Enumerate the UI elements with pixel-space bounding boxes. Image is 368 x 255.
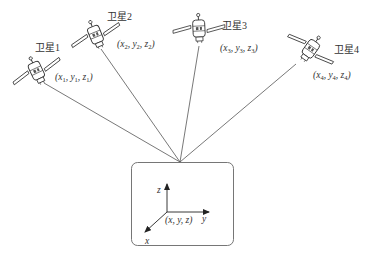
y-axis-label: y (201, 214, 207, 224)
x-axis-label: x (144, 236, 150, 246)
satellite-3-icon (172, 12, 225, 44)
satellite-4-icon (281, 21, 341, 75)
satellite-2-label: 卫星2 (107, 11, 132, 22)
satellite-1-icon (6, 46, 66, 95)
receiver-box (132, 163, 234, 246)
gps-diagram: 卫星1 卫星2 卫星3 卫星4 (x1, y1, z1) (x2, y2, z2… (0, 0, 368, 255)
satellite-4-label: 卫星4 (334, 44, 359, 55)
satellite-3-label: 卫星3 (222, 20, 247, 31)
satellite-1-coord: (x1, y1, z1) (55, 72, 93, 83)
x-axis (145, 212, 167, 232)
receiver-coord: (x, y, z) (165, 215, 192, 226)
signal-line-2 (101, 49, 180, 162)
signal-line-1 (44, 83, 180, 162)
satellite-2-coord: (x2, y2, z2) (117, 39, 155, 50)
signal-line-3 (180, 46, 199, 162)
satellite-3-coord: (x3, y3, z3) (220, 43, 258, 54)
z-axis-label: z (156, 185, 161, 195)
signal-line-4 (180, 64, 296, 162)
satellite-1-label: 卫星1 (35, 42, 60, 53)
signal-lines (44, 46, 296, 162)
satellite-4-coord: (x4, y4, z4) (313, 70, 351, 81)
